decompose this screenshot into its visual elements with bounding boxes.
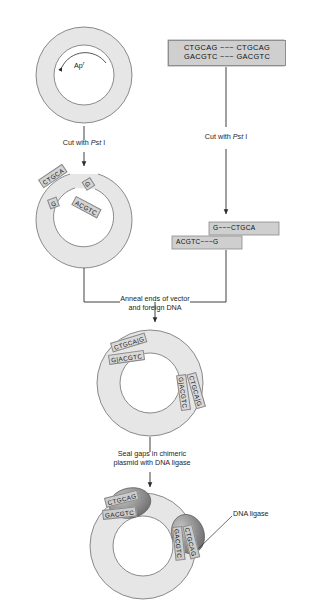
ap-resistance-label: Apr (74, 60, 85, 70)
vector-plasmid (36, 27, 132, 123)
fragment-top-strand: G~~~CTGCA (213, 224, 255, 232)
fragment-bottom-strand: ACGTC~~~G (176, 238, 218, 246)
anneal-caption: Anneal ends of vector and foreign DNA (105, 295, 205, 312)
foreign-dna-box: CTGCAG ~~~ CTGCAG GACGTC ~~~ GACGTC (168, 40, 286, 66)
cut-vector-caption: Cut with Pst I (34, 139, 134, 148)
dna-ligase-label: DNA ligase (233, 509, 269, 518)
ap-superscript: r (83, 60, 85, 66)
seal-caption: Seal gaps in chimeric plasmid with DNA l… (100, 450, 204, 467)
cut-foreign-caption: Cut with Pst I (176, 133, 276, 142)
